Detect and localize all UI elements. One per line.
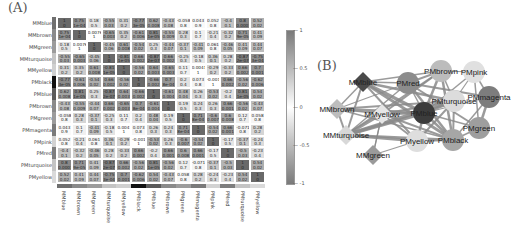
heatmap-cell: 0.520.02 <box>57 171 72 183</box>
heatmap-cell: -0.753e-04 <box>250 53 265 65</box>
heatmap-cell: 0.660.002 <box>235 64 250 76</box>
panel-a-label: (A) <box>8 0 28 15</box>
heatmap-cell: 0.811e-05 <box>72 88 87 100</box>
node-label: PMbrown <box>424 67 458 76</box>
network-nodes: MMblueMMbrownMMyellowMMturquoiseMMgreenP… <box>319 60 511 165</box>
column-module-color <box>250 184 265 188</box>
column-module-color <box>102 184 117 188</box>
heatmap-cell: -0.610.006 <box>72 76 87 88</box>
heatmap-cell: 0.250.3 <box>87 88 102 100</box>
heatmap-cell: 0.0730.8 <box>191 76 206 88</box>
heatmap-cell: 0.0730.8 <box>131 124 146 136</box>
heatmap-cell: -0.550.009 <box>72 100 87 112</box>
heatmap-cell: 0.00411 <box>191 64 206 76</box>
heatmap-cell: 0.719e-05 <box>72 159 87 171</box>
column-module-color <box>220 184 235 188</box>
heatmap-cell: -0.290.2 <box>116 136 131 148</box>
heatmap-cell: 0.10.7 <box>72 124 87 136</box>
heatmap-cell: -0.0710.8 <box>235 124 250 136</box>
heatmap-cell: -0.620.006 <box>131 171 146 183</box>
heatmap-cell: 0.718e-04 <box>191 112 206 124</box>
column-module-color <box>235 184 250 188</box>
heatmap-cell: -0.210.4 <box>72 136 87 148</box>
heatmap-cell: 0.0610.8 <box>206 41 221 53</box>
heatmap-cell: -0.320.2 <box>72 147 87 159</box>
heatmap-cell: 0.360.1 <box>206 53 221 65</box>
column-module-color <box>176 184 191 188</box>
heatmap-cell: -0.410.09 <box>87 124 102 136</box>
node-label: PMpink <box>461 68 489 77</box>
row-module-color <box>52 100 56 112</box>
heatmap-cell: -0.560.02 <box>235 76 250 88</box>
heatmap-cell: 10 <box>131 76 146 88</box>
heatmap-cell: 0.660.001 <box>220 100 235 112</box>
column-label: PMgreen <box>180 191 186 213</box>
module-network-graph: MMblueMMbrownMMyellowMMturquoiseMMgreenP… <box>300 30 517 200</box>
column-module-color <box>116 184 131 188</box>
heatmap-cell: -0.170.5 <box>206 147 221 159</box>
row-module-color <box>52 76 56 88</box>
row-label: PMbrown <box>29 103 52 109</box>
heatmap-cell: -0.370.1 <box>87 112 102 124</box>
heatmap-cell: 0.480.04 <box>146 112 161 124</box>
column-module-color <box>57 184 72 188</box>
heatmap-cell: -0.370.1 <box>235 136 250 148</box>
column-module-color <box>191 184 206 188</box>
column-module-color <box>131 184 146 188</box>
heatmap-cell: 0.540.02 <box>146 171 161 183</box>
heatmap-cell: 0.260.3 <box>206 100 221 112</box>
heatmap-cell: -0.872e-07 <box>102 159 117 171</box>
column-label: PMturquoise <box>240 191 246 222</box>
heatmap-cell: 0.610.008 <box>87 64 102 76</box>
heatmap-cell: -0.660.002 <box>131 88 146 100</box>
heatmap-cell: -0.540.02 <box>87 76 102 88</box>
heatmap-cell: -0.773e-05 <box>131 17 146 29</box>
heatmap-cell: -0.210.4 <box>206 29 221 41</box>
heatmap-cell: -0.610.004 <box>161 88 176 100</box>
heatmap-cell: -0.290.2 <box>206 64 221 76</box>
row-label: MMturquoise <box>20 56 52 62</box>
heatmap-cell: 0.110.7 <box>116 112 131 124</box>
heatmap-cell: -0.753e-04 <box>102 171 117 183</box>
heatmap-cell: -0.620.006 <box>250 76 265 88</box>
heatmap-cell: -0.230.4 <box>220 171 235 183</box>
heatmap-cell: -0.250.3 <box>176 53 191 65</box>
heatmap-cell: -0.560.02 <box>116 76 131 88</box>
heatmap-cell: 0.190.5 <box>161 112 176 124</box>
heatmap-cell: 0.60.008 <box>176 147 191 159</box>
heatmap-cell: 0.190.5 <box>176 100 191 112</box>
heatmap-cell: -0.0580.8 <box>57 112 72 124</box>
heatmap-cell: -0.0710.8 <box>191 159 206 171</box>
heatmap-cell: -0.00141 <box>131 136 146 148</box>
heatmap-cell: 10 <box>220 147 235 159</box>
column-module-color <box>206 184 221 188</box>
heatmap-cell: 10 <box>191 124 206 136</box>
node-label: MMturquoise <box>323 131 370 140</box>
heatmap-cell: 0.660.002 <box>220 76 235 88</box>
heatmap-cell: 0.0430.9 <box>191 17 206 29</box>
heatmap-cell: 0.350.2 <box>72 64 87 76</box>
heatmap-cell: 0.280.2 <box>220 53 235 65</box>
heatmap-cell: -0.540.02 <box>131 41 146 53</box>
heatmap-cell: -0.540.02 <box>206 124 221 136</box>
column-label: MMyellow <box>121 191 127 216</box>
heatmap-cell: -0.240.3 <box>206 171 221 183</box>
heatmap-cell: 0.350.2 <box>116 29 131 41</box>
heatmap-cell: 0.310.2 <box>57 64 72 76</box>
row-module-color <box>52 147 56 159</box>
heatmap-cell: 0.640.003 <box>146 64 161 76</box>
heatmap-cell: 0.260.3 <box>161 136 176 148</box>
heatmap-cell: 0.80.0007 <box>57 159 72 171</box>
node-label: PMred <box>396 79 420 88</box>
heatmap-cell: -0.430.07 <box>250 100 265 112</box>
heatmap-cell: -0.430.08 <box>57 100 72 112</box>
heatmap-cell: 0.78e-04 <box>161 76 176 88</box>
heatmap-cell: 0.811e-05 <box>146 159 161 171</box>
heatmap-cell: 0.410.09 <box>87 159 102 171</box>
row-module-color <box>52 53 56 65</box>
node-label: PMgreen <box>463 124 495 133</box>
heatmap-cell: -0.560.02 <box>161 159 176 171</box>
node-label: PMyellow <box>400 137 434 146</box>
heatmap-cell: -0.20.4 <box>220 88 235 100</box>
heatmap-cell: -0.460.05 <box>87 147 102 159</box>
